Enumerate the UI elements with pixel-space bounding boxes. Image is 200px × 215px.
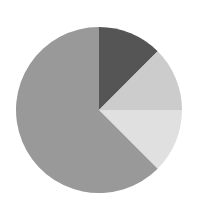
pie-chart-canvas — [0, 0, 200, 215]
pie-chart — [0, 0, 200, 215]
